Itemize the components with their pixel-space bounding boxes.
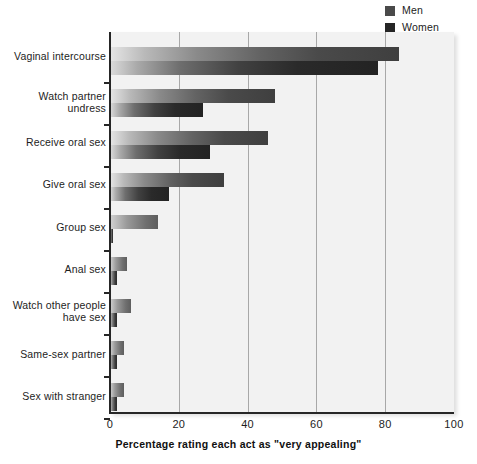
bar-women-anal-sex xyxy=(110,271,117,285)
y-axis-tick xyxy=(104,124,110,126)
gridline-80 xyxy=(385,32,386,413)
category-label-sex-with-stranger: Sex with stranger xyxy=(0,390,106,402)
y-axis-tick xyxy=(104,334,110,336)
category-label-vaginal-intercourse: Vaginal intercourse xyxy=(0,50,106,62)
bar-women-same-sex-partner xyxy=(110,355,117,369)
x-axis-line xyxy=(109,412,454,414)
category-label-same-sex-partner: Same-sex partner xyxy=(0,348,106,360)
bar-men-anal-sex xyxy=(110,257,127,271)
gridline-60 xyxy=(316,32,317,413)
x-tick-label-100: 100 xyxy=(434,418,474,430)
category-label-line: Receive oral sex xyxy=(0,136,106,148)
category-label-group-sex: Group sex xyxy=(0,221,106,233)
y-axis-tick xyxy=(104,166,110,168)
bar-men-sex-with-stranger xyxy=(110,383,124,397)
y-axis-tick xyxy=(104,292,110,294)
bar-men-vaginal-intercourse xyxy=(110,47,399,61)
bar-women-give-oral-sex xyxy=(110,187,169,201)
bar-women-watch-partner-undress xyxy=(110,103,203,117)
category-label-line: Watch other people xyxy=(0,299,106,311)
y-axis-tick xyxy=(104,376,110,378)
category-label-line: Watch partner xyxy=(0,90,106,102)
bar-women-vaginal-intercourse xyxy=(110,61,378,75)
x-tick-label-40: 40 xyxy=(228,418,268,430)
bar-women-sex-with-stranger xyxy=(110,397,117,411)
bar-men-same-sex-partner xyxy=(110,341,124,355)
bar-women-receive-oral-sex xyxy=(110,145,210,159)
category-label-receive-oral-sex: Receive oral sex xyxy=(0,136,106,148)
legend-item-men: Men xyxy=(385,3,475,18)
y-axis-tick xyxy=(104,208,110,210)
bar-men-group-sex xyxy=(110,215,158,229)
x-axis-title: Percentage rating each act as "very appe… xyxy=(0,438,477,450)
legend-label-men: Men xyxy=(402,5,423,16)
category-label-watch-other-people-have-sex: Watch other people have sex xyxy=(0,299,106,323)
category-label-line: undress xyxy=(0,102,106,114)
x-tick-label-80: 80 xyxy=(365,418,405,430)
category-label-line: Vaginal intercourse xyxy=(0,50,106,62)
y-axis-line xyxy=(109,32,111,413)
category-label-line: Anal sex xyxy=(0,263,106,275)
x-tick-label-60: 60 xyxy=(296,418,336,430)
bar-men-receive-oral-sex xyxy=(110,131,268,145)
bar-women-watch-other-people-have-sex xyxy=(110,313,117,327)
category-label-give-oral-sex: Give oral sex xyxy=(0,178,106,190)
category-label-line: have sex xyxy=(0,311,106,323)
y-axis-tick xyxy=(104,82,110,84)
bar-men-watch-other-people-have-sex xyxy=(110,299,131,313)
category-label-line: Same-sex partner xyxy=(0,348,106,360)
y-axis-tick xyxy=(104,250,110,252)
y-axis-tick xyxy=(104,418,110,420)
plot-inner xyxy=(110,32,454,413)
x-tick-label-20: 20 xyxy=(159,418,199,430)
bar-men-watch-partner-undress xyxy=(110,89,275,103)
chart-figure: Men Women Vaginal intercourse Watch part… xyxy=(0,0,477,464)
category-label-line: Sex with stranger xyxy=(0,390,106,402)
legend-swatch-men xyxy=(385,6,395,16)
bar-men-give-oral-sex xyxy=(110,173,224,187)
category-label-anal-sex: Anal sex xyxy=(0,263,106,275)
legend-swatch-women xyxy=(385,23,395,33)
category-label-line: Group sex xyxy=(0,221,106,233)
x-tick-label-0: 0 xyxy=(90,418,130,430)
plot-area xyxy=(110,32,454,413)
category-label-line: Give oral sex xyxy=(0,178,106,190)
category-label-watch-partner-undress: Watch partner undress xyxy=(0,90,106,114)
